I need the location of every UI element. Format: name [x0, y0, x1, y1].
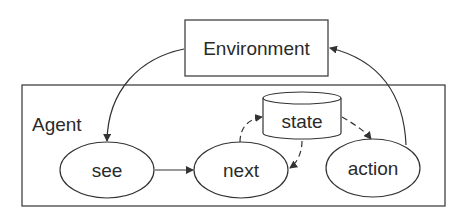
node-see: see [60, 142, 154, 198]
node-state: state [263, 92, 341, 139]
node-next: next [194, 142, 288, 198]
environment-box: Environment [185, 20, 328, 76]
node-state-label: state [281, 111, 322, 132]
agent-environment-diagram: Agent Environment see next state action [0, 0, 467, 216]
node-see-label: see [92, 160, 123, 181]
node-action: action [326, 139, 420, 197]
node-action-label: action [348, 158, 399, 179]
environment-label: Environment [203, 38, 310, 59]
agent-label: Agent [32, 114, 82, 135]
node-next-label: next [223, 160, 260, 181]
